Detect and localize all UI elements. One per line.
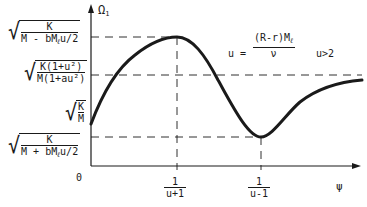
x-tick-peak: 1 u+1 (164, 176, 186, 199)
definition-fraction: (R-r)Mℓ ν (252, 32, 295, 59)
level-label-asymptote: √ K(1+u²) M(1+au²) (24, 60, 87, 84)
x-axis-arrow-icon (352, 163, 361, 169)
y-axis-arrow-icon (88, 4, 94, 13)
level-label-max: √ K M - bMℓu/2 (8, 20, 80, 48)
level-label-min: √ K M + bMℓu/2 (8, 133, 80, 161)
origin-label: 0 (76, 173, 82, 183)
y-axis-label: Ω1 (98, 5, 109, 19)
definition-lhs: u = (228, 49, 246, 59)
definition-condition: u>2 (316, 49, 334, 59)
frequency-response-diagram: Ω1 √ K M - bMℓu/2 √ K(1+u²) M(1+au²) √ K… (0, 0, 367, 207)
x-axis-label: ψ (336, 182, 343, 192)
level-label-start: √ K M (65, 100, 86, 124)
x-tick-trough: 1 u-1 (248, 176, 270, 199)
